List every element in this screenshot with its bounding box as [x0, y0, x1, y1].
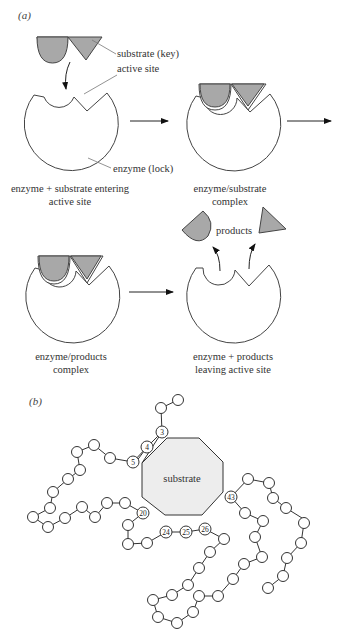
residue [102, 498, 113, 509]
residue [173, 395, 184, 406]
residue [156, 403, 167, 414]
enzyme-lock-1 [24, 93, 118, 171]
residue [45, 503, 56, 514]
substrate-round-part [37, 37, 68, 63]
residue [167, 590, 178, 601]
residue [90, 512, 101, 523]
active-site-label: active site [117, 63, 160, 74]
active-site-leader-line [84, 75, 117, 94]
residue [239, 559, 250, 570]
product-leaving-arrow-left [213, 247, 220, 271]
stage-1-caption-line1: enzyme + substrate entering [11, 183, 130, 194]
residue [148, 595, 159, 606]
residue [278, 571, 289, 582]
residue [123, 539, 134, 550]
residue [63, 474, 74, 485]
octagon-substrate-label: substrate [163, 473, 201, 484]
released-product-triangle-shape [259, 207, 286, 233]
stage-1-caption-line2: active site [49, 196, 92, 207]
residue [257, 552, 268, 563]
stage-4-caption-line2: leaving active site [195, 364, 271, 375]
residue [282, 553, 293, 564]
residue [43, 522, 54, 533]
residue-20-label: 20 [139, 509, 147, 518]
residue [258, 516, 269, 527]
stage-2-caption-line1: enzyme/substrate [194, 183, 267, 194]
residue [296, 538, 307, 549]
substrate-key-label: substrate (key) [117, 48, 180, 60]
part-b-label: (b) [29, 395, 42, 408]
residue [250, 532, 261, 543]
enzyme-lock-label: enzyme (lock) [113, 163, 174, 175]
residue [213, 591, 224, 602]
released-product-round [182, 211, 211, 241]
residue [268, 493, 279, 504]
product-leaving-arrow-right [249, 244, 255, 269]
stage-3-caption-line2: complex [53, 364, 90, 375]
products-label: products [216, 225, 252, 236]
enzyme-lock-2 [187, 94, 281, 171]
stage-4-caption-line1: enzyme + products [193, 351, 273, 362]
residue [172, 618, 183, 629]
residue [72, 447, 83, 458]
residue [77, 502, 88, 513]
residue [243, 474, 254, 485]
residue [281, 503, 292, 514]
residue [142, 538, 153, 549]
residue-5-label: 5 [131, 458, 135, 467]
enzyme-lock-3 [26, 266, 120, 343]
residue-26-label: 26 [201, 525, 209, 534]
substrate-triangle-part [68, 37, 102, 60]
residue [299, 518, 310, 529]
entering-arrow [66, 62, 71, 89]
residue [105, 453, 116, 464]
residue [264, 478, 275, 489]
residue [205, 547, 216, 558]
residue-25-label: 25 [182, 528, 190, 537]
residue [194, 563, 205, 574]
residue-24-label: 24 [162, 528, 170, 537]
residue [120, 498, 131, 509]
residue-3-label: 3 [160, 428, 164, 437]
residue [28, 512, 39, 523]
residue [183, 580, 194, 591]
enzyme-lock-4 [187, 265, 281, 343]
stage-3-caption-line1: enzyme/products [35, 351, 107, 362]
lock-and-key-diagram: (a) substrate (key) active site enzyme (… [0, 0, 337, 639]
residue [188, 607, 199, 618]
residue [153, 612, 164, 623]
residue [89, 440, 100, 451]
residue [228, 574, 239, 585]
residue-4-label: 4 [145, 443, 149, 452]
residue-43-label: 43 [227, 493, 235, 502]
residue [240, 508, 251, 519]
residue [219, 534, 230, 545]
residue [123, 520, 134, 531]
stage-2-caption-line2: complex [212, 196, 249, 207]
residue [48, 487, 59, 498]
residue [75, 465, 86, 476]
residue [263, 583, 274, 594]
residue [194, 591, 205, 602]
residue [60, 513, 71, 524]
part-a-label: (a) [18, 9, 31, 22]
